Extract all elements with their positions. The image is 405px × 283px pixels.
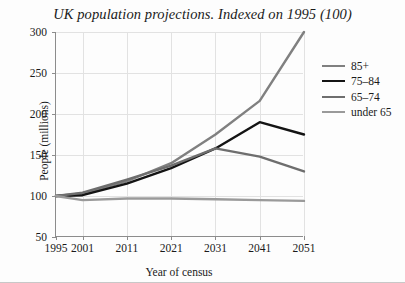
y-tick-label: 300 [30,26,47,38]
x-tick-label: 2011 [116,242,139,254]
x-tick [127,236,128,240]
legend-item-label: under 65 [351,106,392,118]
series-line [56,148,304,196]
x-tick [56,236,57,240]
x-tick-label: 2041 [248,242,271,254]
x-tick-label: 2021 [160,242,183,254]
x-tick-label: 2051 [293,242,316,254]
legend-swatch-icon [322,65,345,67]
series-lines [56,32,304,237]
x-tick [83,236,84,240]
legend-item[interactable]: 85+ [322,58,392,74]
x-tick [171,236,172,240]
x-tick-label: 1995 [45,242,68,254]
y-tick [52,237,56,238]
y-tick-label: 100 [30,190,47,202]
legend-item-label: 85+ [351,60,369,72]
y-tick [52,155,56,156]
chart-legend: 85+75–8465–74under 65 [322,58,392,120]
legend-item[interactable]: 75–84 [322,74,392,90]
legend-item[interactable]: under 65 [322,105,392,121]
y-tick [52,32,56,33]
legend-swatch-icon [322,111,345,113]
y-tick [52,196,56,197]
y-tick [52,114,56,115]
legend-swatch-icon [322,96,345,98]
y-tick [52,73,56,74]
y-tick-label: 250 [30,67,47,79]
x-tick [304,236,305,240]
legend-item[interactable]: 65–74 [322,89,392,105]
y-tick-label: 150 [30,149,47,161]
y-tick-label: 200 [30,108,47,120]
legend-item-label: 75–84 [351,75,380,87]
x-tick-label: 2001 [71,242,94,254]
y-tick-label: 50 [36,231,48,243]
plot-area: 1995200120112021203120412051 50100150200… [55,32,303,237]
chart-figure: UK population projections. Indexed on 19… [0,0,405,283]
x-axis-label: Year of census [55,266,303,278]
x-tick-label: 2031 [204,242,227,254]
x-tick [215,236,216,240]
series-line [56,32,304,196]
legend-item-label: 65–74 [351,91,380,103]
legend-swatch-icon [322,80,345,82]
chart-title: UK population projections. Indexed on 19… [0,6,405,23]
series-line [56,196,304,201]
x-tick [260,236,261,240]
